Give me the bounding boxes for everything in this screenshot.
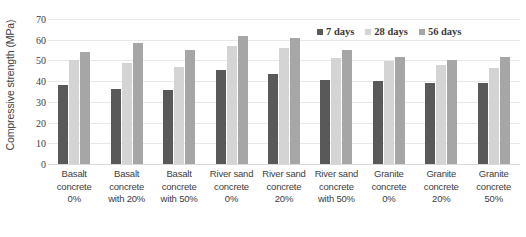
bar[interactable] — [111, 89, 121, 164]
bar[interactable] — [80, 52, 90, 164]
y-axis-tick-label: 70 — [22, 14, 46, 25]
x-axis-category-label: River sandconcrete20% — [258, 168, 310, 206]
y-axis-tick-label: 40 — [22, 76, 46, 87]
y-axis-tick-labels: 706050403020100 — [22, 12, 46, 164]
x-axis-category-label: Basaltconcrete0% — [48, 168, 100, 206]
bar-group — [468, 19, 520, 164]
bar[interactable] — [227, 46, 237, 164]
bar[interactable] — [436, 65, 446, 164]
bar[interactable] — [395, 57, 405, 164]
x-axis-label-line: Basalt — [48, 168, 100, 181]
x-axis-label-line: Granite — [468, 168, 520, 181]
x-axis-category-label: River sandconcretewith 50% — [310, 168, 362, 206]
compressive-strength-bar-chart: Compressive strength (MPa) 7060504030201… — [0, 0, 526, 237]
legend-item[interactable]: 56 days — [419, 26, 462, 37]
bar[interactable] — [279, 48, 289, 164]
legend-item[interactable]: 7 days — [317, 26, 354, 37]
legend-item[interactable]: 28 days — [365, 26, 408, 37]
x-axis-category-label: Graniteconcrete20% — [415, 168, 467, 206]
x-axis-category-labels: Basaltconcrete0%Basaltconcretewith 20%Ba… — [48, 168, 520, 206]
y-axis-tick-label: 50 — [22, 55, 46, 66]
x-axis-label-line: concrete — [415, 181, 467, 194]
bar[interactable] — [238, 36, 248, 164]
x-axis-category-label: River sandconcrete0% — [205, 168, 257, 206]
x-axis-label-line: with 20% — [100, 193, 152, 206]
y-axis-tick-label: 10 — [22, 138, 46, 149]
bar-group — [363, 19, 415, 164]
x-axis-label-line: River sand — [205, 168, 257, 181]
bar[interactable] — [447, 60, 457, 164]
bar[interactable] — [58, 85, 68, 164]
bar[interactable] — [133, 43, 143, 164]
bar[interactable] — [478, 83, 488, 164]
x-axis-label-line: concrete — [205, 181, 257, 194]
bar[interactable] — [69, 60, 79, 164]
bar[interactable] — [268, 74, 278, 164]
y-axis-tick-label: 60 — [22, 34, 46, 45]
bar-group — [310, 19, 362, 164]
x-axis-label-line: concrete — [153, 181, 205, 194]
x-axis-label-line: 0% — [363, 193, 415, 206]
x-axis-category-label: Basaltconcretewith 50% — [153, 168, 205, 206]
x-axis-label-line: with 50% — [310, 193, 362, 206]
bar-group — [258, 19, 310, 164]
bar-group — [48, 19, 100, 164]
chart-legend: 7 days28 days56 days — [317, 26, 461, 37]
x-axis-label-line: River sand — [258, 168, 310, 181]
x-axis-label-line: concrete — [48, 181, 100, 194]
bar-group — [205, 19, 257, 164]
bar[interactable] — [331, 58, 341, 164]
bar[interactable] — [290, 38, 300, 164]
bar[interactable] — [163, 90, 173, 164]
bar-group — [100, 19, 152, 164]
x-axis-label-line: Basalt — [100, 168, 152, 181]
x-axis-label-line: Basalt — [153, 168, 205, 181]
legend-swatch-icon — [317, 29, 323, 35]
x-axis-label-line: Granite — [363, 168, 415, 181]
bar[interactable] — [384, 61, 394, 164]
legend-swatch-icon — [365, 29, 371, 35]
y-axis-title: Compressive strength (MPa) — [0, 0, 20, 170]
y-axis-tick-label: 0 — [22, 159, 46, 170]
bar-group — [153, 19, 205, 164]
plot-area — [48, 19, 520, 164]
bar[interactable] — [500, 57, 510, 164]
x-axis-label-line: 20% — [258, 193, 310, 206]
bar[interactable] — [489, 68, 499, 164]
bar[interactable] — [320, 80, 330, 164]
bar[interactable] — [122, 63, 132, 165]
x-axis-label-line: 0% — [48, 193, 100, 206]
x-axis-category-label: Graniteconcrete0% — [363, 168, 415, 206]
x-axis-label-line: 20% — [415, 193, 467, 206]
x-axis-category-label: Basaltconcretewith 20% — [100, 168, 152, 206]
x-axis-label-line: with 50% — [153, 193, 205, 206]
x-axis-label-line: concrete — [100, 181, 152, 194]
legend-label: 56 days — [428, 26, 462, 37]
bar[interactable] — [425, 83, 435, 164]
x-axis-label-line: concrete — [468, 181, 520, 194]
x-axis-category-label: Graniteconcrete50% — [468, 168, 520, 206]
y-axis-tick-label: 30 — [22, 96, 46, 107]
bar-group — [415, 19, 467, 164]
legend-label: 7 days — [326, 26, 354, 37]
bar[interactable] — [342, 50, 352, 164]
x-axis-label-line: 0% — [205, 193, 257, 206]
x-axis-label-line: concrete — [310, 181, 362, 194]
y-axis-tick-label: 20 — [22, 117, 46, 128]
x-axis-label-line: 50% — [468, 193, 520, 206]
bar[interactable] — [185, 50, 195, 164]
x-axis-label-line: Granite — [415, 168, 467, 181]
y-axis-title-text: Compressive strength (MPa) — [4, 19, 16, 150]
x-axis-label-line: concrete — [363, 181, 415, 194]
bar[interactable] — [216, 70, 226, 164]
bar[interactable] — [373, 81, 383, 164]
bar-groups — [48, 19, 520, 164]
bar[interactable] — [174, 67, 184, 164]
axis-baseline — [48, 164, 520, 165]
legend-label: 28 days — [374, 26, 408, 37]
x-axis-label-line: concrete — [258, 181, 310, 194]
legend-swatch-icon — [419, 29, 425, 35]
x-axis-label-line: River sand — [310, 168, 362, 181]
